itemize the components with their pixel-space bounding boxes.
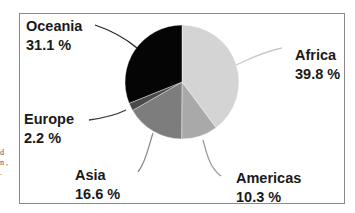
label-asia-name: Asia bbox=[75, 166, 120, 185]
label-asia: Asia 16.6 % bbox=[75, 166, 120, 204]
leader-line-europe bbox=[89, 110, 126, 120]
label-asia-pct: 16.6 % bbox=[75, 185, 120, 204]
label-europe-name: Europe bbox=[24, 110, 74, 129]
label-africa-pct: 39.8 % bbox=[295, 65, 340, 84]
label-africa-name: Africa bbox=[295, 46, 340, 65]
leader-line-oceania bbox=[95, 25, 137, 48]
label-oceania: Oceania 31.1 % bbox=[26, 17, 82, 55]
label-americas: Americas 10.3 % bbox=[236, 169, 301, 207]
leader-line-asia bbox=[138, 133, 153, 172]
label-oceania-name: Oceania bbox=[26, 17, 82, 36]
label-europe-pct: 2.2 % bbox=[24, 129, 74, 148]
label-oceania-pct: 31.1 % bbox=[26, 36, 82, 55]
label-americas-pct: 10.3 % bbox=[236, 188, 301, 207]
label-americas-name: Americas bbox=[236, 169, 301, 188]
label-africa: Africa 39.8 % bbox=[295, 46, 340, 84]
label-europe: Europe 2.2 % bbox=[24, 110, 74, 148]
pie-slices bbox=[125, 25, 239, 139]
leader-line-africa bbox=[236, 48, 282, 65]
leader-line-americas bbox=[203, 140, 221, 176]
